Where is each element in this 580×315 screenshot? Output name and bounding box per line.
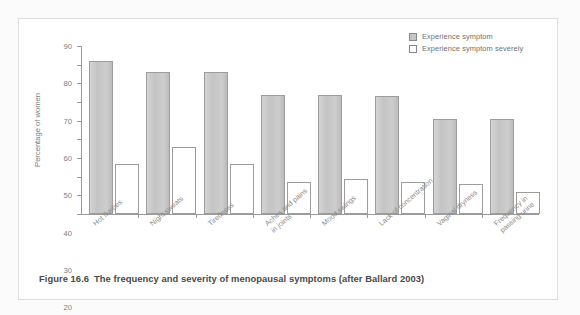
figure-number: Figure 16.6	[39, 273, 89, 284]
filled-gray-square-icon	[409, 33, 417, 41]
bar-group	[490, 46, 540, 214]
figure-caption-text: The frequency and severity of menopausal…	[94, 273, 424, 284]
bar-group	[89, 46, 139, 214]
y-axis-tick-label: 90	[64, 42, 72, 51]
x-axis-tick	[253, 214, 254, 218]
bar-group	[204, 46, 254, 214]
x-axis-tick	[196, 214, 197, 218]
legend-item-experience-symptom: Experience symptom	[409, 32, 523, 41]
y-axis-tick: 10	[77, 195, 81, 196]
y-axis-tick-label: 40	[64, 228, 72, 237]
bar-experience-symptom	[433, 119, 457, 214]
legend-item-label: Experience symptom	[422, 32, 493, 41]
bar-experience-symptom	[204, 72, 228, 214]
x-axis-tick	[425, 214, 426, 218]
y-axis-tick: 70	[77, 83, 81, 84]
x-axis-tick	[310, 214, 311, 218]
x-axis-tick	[138, 214, 139, 218]
x-axis-tick	[482, 214, 483, 218]
y-axis-tick: 90	[77, 46, 81, 47]
y-axis-tick: 40	[77, 139, 81, 140]
y-axis-tick: 0	[77, 214, 81, 215]
y-axis-tick-label: 80	[64, 79, 72, 88]
plot-area: Percentage of women 0102030405060708090 …	[81, 46, 539, 214]
y-axis-tick: 50	[77, 121, 81, 122]
y-axis-tick: 80	[77, 65, 81, 66]
x-axis-tick	[367, 214, 368, 218]
bar-experience-symptom	[89, 61, 113, 214]
y-axis-line	[81, 46, 82, 214]
bar-experience-symptom	[261, 95, 285, 214]
bar-experience-symptom	[146, 72, 170, 214]
bar-experience-symptom	[318, 95, 342, 214]
bar-experience-symptom	[375, 96, 399, 214]
y-axis-tick: 30	[77, 158, 81, 159]
bar-group	[318, 46, 368, 214]
y-axis-tick-label: 50	[64, 191, 72, 200]
y-axis-tick: 20	[77, 177, 81, 178]
y-axis-tick-label: 70	[64, 116, 72, 125]
y-axis-title: Percentage of women	[33, 93, 42, 167]
figure-caption: Figure 16.6The frequency and severity of…	[39, 273, 424, 284]
y-axis-tick: 60	[77, 102, 81, 103]
figure-frame: Experience symptom Experience symptom se…	[18, 18, 558, 300]
bar-group	[146, 46, 196, 214]
y-axis-tick-label: 60	[64, 154, 72, 163]
bar-experience-symptom	[490, 119, 514, 214]
y-axis-tick-label: 20	[64, 303, 72, 312]
